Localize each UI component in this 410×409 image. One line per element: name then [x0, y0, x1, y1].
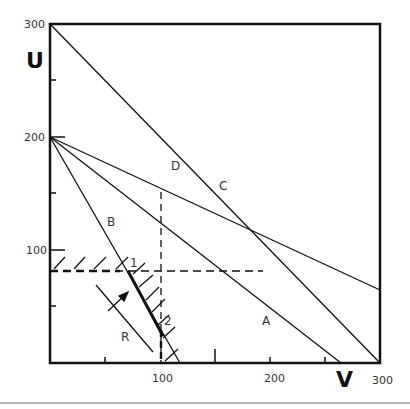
line-c [50, 24, 380, 363]
x-tick-100: 100 [152, 372, 173, 385]
diagram-canvas: 300 200 100 100 200 300 U V D C [0, 0, 410, 409]
y-tick-200: 200 [24, 131, 45, 144]
label-r: R [121, 330, 129, 344]
label-point-1: 1 [130, 256, 138, 270]
label-c: C [219, 179, 227, 193]
x-axis-title: V [336, 367, 353, 392]
x-tick-200: 200 [264, 372, 285, 385]
x-axis-ticks [105, 349, 325, 363]
label-point-2: 2 [164, 314, 172, 328]
y-tick-100: 100 [26, 244, 47, 257]
label-d: D [171, 159, 180, 173]
page-separator [0, 402, 410, 404]
label-a: A [262, 314, 271, 328]
y-axis-title: U [26, 48, 44, 73]
y-tick-300: 300 [24, 18, 45, 31]
x-tick-300: 300 [372, 374, 393, 387]
label-b: B [107, 215, 115, 229]
arrow-icon [108, 292, 128, 311]
line-a [50, 137, 341, 363]
line-d [50, 137, 380, 290]
